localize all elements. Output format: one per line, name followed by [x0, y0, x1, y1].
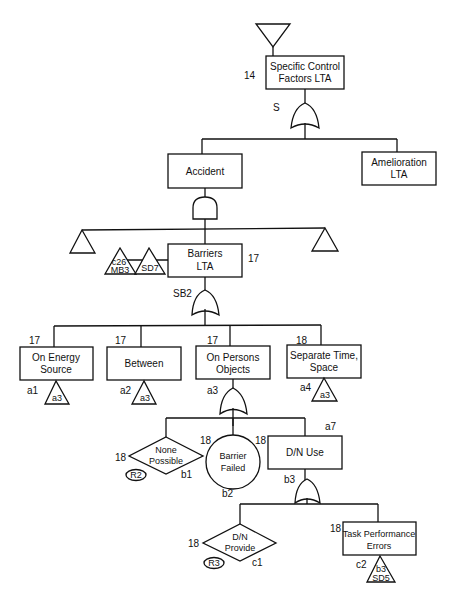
node-dn-use[interactable]: D/N Use	[268, 436, 342, 469]
transfer-triangle-icon	[312, 228, 338, 251]
node-on-energy-source[interactable]: On Energy Source	[20, 347, 93, 380]
node-between[interactable]: Between	[107, 347, 181, 380]
transfer-a3[interactable]: a3	[45, 381, 69, 404]
node-dn-provide[interactable]: D/N Provide	[203, 524, 276, 561]
svg-text:LTA: LTA	[197, 261, 214, 272]
tag-r3[interactable]: R3	[204, 558, 224, 569]
node-on-persons-objects[interactable]: On Persons Objects	[196, 346, 270, 379]
transfer-triangle-icon	[70, 230, 95, 253]
gate-label: b3	[284, 474, 296, 485]
svg-text:Provide: Provide	[225, 543, 256, 553]
svg-text:Source: Source	[40, 364, 72, 375]
svg-text:Amelioration: Amelioration	[371, 157, 427, 168]
ref-number: 17	[248, 253, 260, 264]
svg-text:On Energy: On Energy	[32, 352, 80, 363]
svg-text:D/N Use: D/N Use	[286, 447, 324, 458]
svg-text:Errors: Errors	[367, 541, 392, 551]
ref-number: 17	[207, 335, 219, 346]
svg-text:R3: R3	[208, 558, 220, 568]
svg-text:Barrier: Barrier	[219, 451, 246, 461]
ref-number: 18	[188, 538, 200, 549]
node-specific-control-factors[interactable]: Specific Control Factors LTA	[266, 56, 344, 89]
transfer-sd7[interactable]: SD7	[135, 248, 165, 274]
svg-text:Space: Space	[310, 362, 339, 373]
transfer-in-triangle-icon	[256, 24, 290, 47]
node-barrier-failed[interactable]: Barrier Failed	[206, 435, 260, 489]
svg-text:Between: Between	[125, 358, 164, 369]
svg-text:Accident: Accident	[186, 166, 225, 177]
code-label: c2	[356, 559, 367, 570]
svg-text:a3: a3	[52, 393, 62, 403]
ref-number: 18	[255, 435, 267, 446]
svg-text:On Persons: On Persons	[207, 352, 260, 363]
svg-text:a3: a3	[320, 390, 330, 400]
code-label: a1	[27, 385, 39, 396]
node-separate-time-space[interactable]: Separate Time, Space	[287, 345, 361, 378]
code-label: a3	[207, 385, 219, 396]
svg-text:R2: R2	[130, 470, 142, 480]
svg-text:LTA: LTA	[391, 169, 408, 180]
svg-text:SD5: SD5	[372, 573, 390, 583]
svg-text:Barriers: Barriers	[187, 248, 222, 259]
ref-number: 18	[330, 523, 342, 534]
svg-text:Failed: Failed	[221, 463, 246, 473]
fault-tree-diagram: Specific Control Factors LTA 14 S Accide…	[0, 0, 454, 604]
svg-text:Specific Control: Specific Control	[270, 61, 340, 72]
transfer-a3[interactable]: a3	[312, 378, 337, 401]
transfer-a3[interactable]: a3	[132, 381, 156, 404]
code-label: a4	[300, 382, 312, 393]
node-barriers-lta[interactable]: Barriers LTA	[168, 244, 242, 277]
svg-text:D/N: D/N	[232, 532, 248, 542]
ref-number: 18	[115, 452, 127, 463]
svg-text:a3: a3	[140, 393, 150, 403]
node-accident[interactable]: Accident	[168, 154, 242, 188]
svg-text:Separate Time,: Separate Time,	[290, 350, 358, 361]
tag-r2[interactable]: R2	[126, 470, 146, 481]
ref-number: 14	[244, 70, 256, 81]
code-label: b2	[222, 488, 234, 499]
svg-text:Factors LTA: Factors LTA	[279, 73, 332, 84]
svg-text:Task Performance: Task Performance	[343, 529, 416, 539]
gate-label: SB2	[173, 288, 192, 299]
node-task-performance-errors[interactable]: Task Performance Errors	[343, 522, 416, 555]
svg-text:Possible: Possible	[149, 456, 183, 466]
svg-text:SD7: SD7	[141, 263, 159, 273]
code-label: a2	[120, 385, 132, 396]
code-label: c1	[252, 557, 263, 568]
ref-number: 17	[115, 335, 127, 346]
circle-basic-event-icon	[206, 435, 260, 489]
and-gate-icon	[193, 197, 217, 219]
code-label: b1	[181, 469, 193, 480]
code-label: a7	[325, 421, 337, 432]
transfer-b3-sd5[interactable]: b3 SD5	[367, 556, 395, 583]
gate-label: S	[273, 102, 280, 113]
ref-number: 17	[29, 335, 41, 346]
svg-text:Objects: Objects	[216, 364, 250, 375]
ref-number: 18	[200, 435, 212, 446]
node-amelioration-lta[interactable]: Amelioration LTA	[362, 152, 436, 185]
transfer-c26-mb3[interactable]: c26 MB3	[105, 248, 136, 275]
svg-text:None: None	[155, 445, 177, 455]
svg-text:MB3: MB3	[111, 265, 130, 275]
